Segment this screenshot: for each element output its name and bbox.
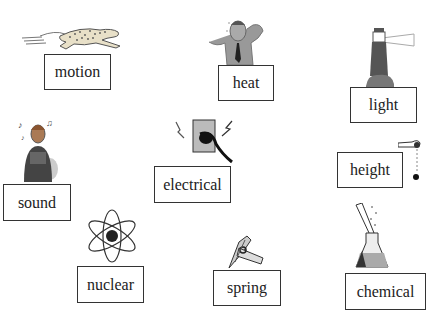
clothespin-spring-icon (225, 232, 267, 270)
label-height: height (337, 152, 403, 188)
atom-icon (87, 208, 137, 264)
label-electrical: electrical (154, 166, 231, 203)
label-light: light (350, 87, 417, 123)
svg-text:♪: ♪ (21, 134, 25, 142)
label-heat: heat (218, 65, 274, 101)
label-motion: motion (44, 54, 111, 90)
flask-test-tube-icon (350, 203, 394, 271)
label-nuclear: nuclear (77, 266, 144, 303)
singing-person-icon: ♪ ♫ ♪ (16, 114, 58, 184)
svg-text:♪: ♪ (18, 120, 23, 130)
lighthouse-icon (366, 24, 416, 87)
running-cheetah-icon (20, 24, 128, 52)
wall-outlet-plug-icon (172, 118, 242, 166)
label-chemical: chemical (345, 273, 426, 310)
energy-forms-diagram: motion heat light ♪ ♫ ♪ (0, 0, 430, 313)
sweating-man-icon (207, 17, 265, 65)
label-spring: spring (213, 270, 281, 306)
label-sound: sound (3, 184, 71, 221)
svg-text:♫: ♫ (46, 118, 53, 128)
